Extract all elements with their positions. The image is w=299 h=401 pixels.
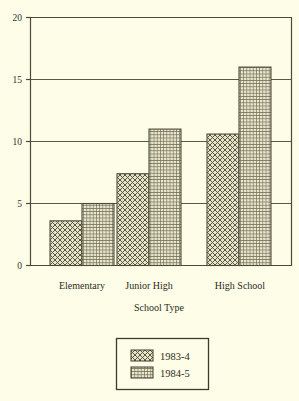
y-tick-label-15: 15	[13, 75, 23, 85]
legend-swatch-1983-4	[131, 350, 153, 361]
y-tick-label-0: 0	[17, 261, 22, 271]
y-tick-label-10: 10	[13, 137, 23, 147]
legend-border	[117, 339, 209, 390]
x-tick-label-junior-high: Junior High	[125, 280, 173, 291]
x-tick-label-elementary: Elementary	[59, 280, 105, 291]
legend: 1983-4 1984-5	[117, 339, 209, 390]
bar-junior-high-1983-4	[117, 174, 149, 266]
x-tick-label-high-school: High School	[215, 280, 266, 291]
chart-canvas: 20 15 10 5 0 Elementary Junior High High…	[0, 0, 299, 401]
legend-swatch-1984-5	[131, 367, 153, 378]
bar-junior-high-1984-5	[149, 129, 181, 265]
bar-chart: 20 15 10 5 0 Elementary Junior High High…	[0, 0, 299, 401]
legend-label-1984-5: 1984-5	[160, 368, 190, 379]
bar-elementary-1983-4	[50, 221, 82, 266]
legend-label-1983-4: 1983-4	[160, 351, 190, 362]
bar-high-school-1983-4	[207, 134, 239, 265]
bar-elementary-1984-5	[82, 204, 114, 266]
x-axis-title: School Type	[134, 302, 185, 313]
bar-high-school-1984-5	[239, 67, 271, 265]
y-tick-label-20: 20	[13, 13, 23, 23]
y-tick-label-5: 5	[17, 199, 22, 209]
